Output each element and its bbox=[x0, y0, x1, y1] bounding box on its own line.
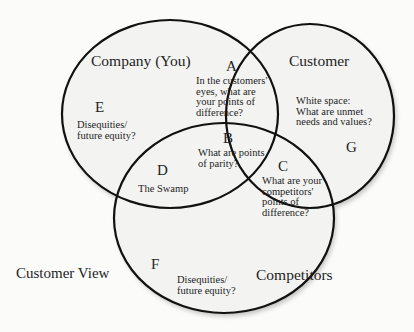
customer-title: Customer bbox=[289, 52, 349, 70]
venn-diagram: Company (You) Customer Competitors A In … bbox=[0, 0, 414, 332]
region-a-letter: A bbox=[226, 58, 237, 75]
competitors-title: Competitors bbox=[256, 266, 333, 284]
region-a-text: In the customers' eyes, what are your po… bbox=[196, 76, 267, 118]
region-e-letter: E bbox=[95, 99, 104, 116]
region-f-letter: F bbox=[151, 256, 159, 273]
region-f-text: Disequities/ future equity? bbox=[177, 275, 236, 296]
company-title: Company (You) bbox=[91, 52, 191, 70]
region-g-letter: G bbox=[346, 139, 357, 156]
region-b-text: What are points of parity? bbox=[198, 148, 264, 169]
region-c-letter: C bbox=[278, 158, 288, 175]
region-c-text: What are your competitors' points of dif… bbox=[262, 176, 322, 218]
region-d-letter: D bbox=[157, 162, 168, 179]
region-e-text: Disequities/ future equity? bbox=[77, 120, 136, 141]
region-g-text: White space: What are unmet needs and va… bbox=[296, 96, 372, 128]
region-b-letter: B bbox=[223, 130, 233, 147]
customer-view-label: Customer View bbox=[16, 265, 109, 282]
region-d-text: The Swamp bbox=[138, 184, 188, 195]
